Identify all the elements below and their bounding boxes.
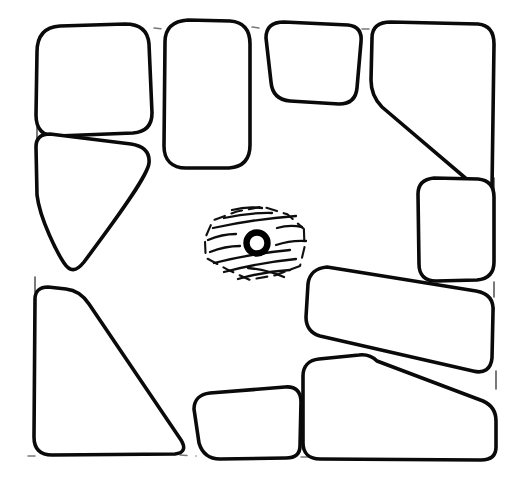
stone-n-small (266, 22, 361, 104)
plan-drawing-canvas (0, 0, 515, 493)
stone-arrangement-figure (0, 0, 515, 493)
stone-e-block (418, 178, 494, 281)
stone-n-tall (164, 20, 250, 168)
stone-nw-block (36, 24, 152, 136)
post-setting-ring-icon (247, 233, 268, 254)
stone-s-block (194, 387, 301, 459)
